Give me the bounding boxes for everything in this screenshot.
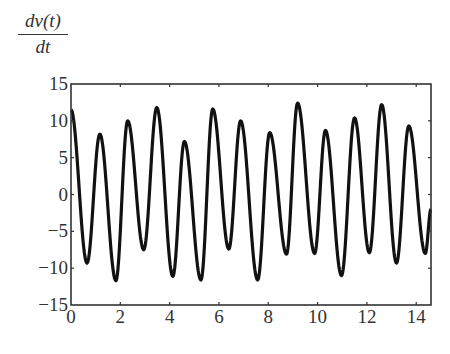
- x-tick-label: 12: [357, 306, 376, 327]
- x-tick-label: 14: [407, 306, 427, 327]
- x-tick-label: 10: [308, 306, 327, 327]
- axes-frame: [71, 84, 431, 305]
- x-tick-label: 2: [116, 306, 126, 327]
- y-tick-label: 10: [49, 110, 68, 131]
- y-tick-label: 15: [49, 73, 68, 94]
- y-tick-label: 0: [59, 184, 69, 205]
- x-tick-label: 6: [214, 306, 224, 327]
- plot-area: [71, 103, 431, 281]
- x-tick-label: 4: [165, 306, 175, 327]
- data-line: [71, 103, 431, 281]
- y-tick-label: −5: [48, 220, 68, 241]
- y-tick-label: −15: [38, 294, 68, 315]
- y-tick-label: −10: [38, 257, 68, 278]
- x-tick-label: 8: [264, 306, 274, 327]
- y-tick-label: 5: [59, 147, 69, 168]
- line-chart: 02468101214 151050−5−10−15: [0, 0, 450, 354]
